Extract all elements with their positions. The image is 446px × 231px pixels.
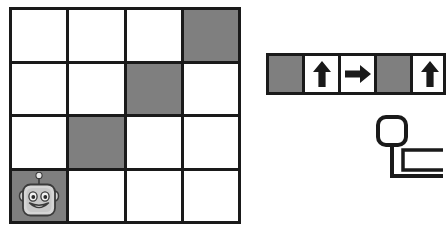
grid-cell-r3c2[interactable]	[127, 171, 181, 222]
grid-cell-r1c0[interactable]	[12, 64, 66, 115]
arrow-right-icon	[344, 64, 372, 84]
program-sequence-bar[interactable]	[266, 53, 446, 95]
arrow-up-icon	[312, 60, 332, 88]
sequence-slot-1[interactable]	[305, 56, 338, 92]
loop-block[interactable]	[370, 112, 443, 192]
grid-cell-r3c3[interactable]	[184, 171, 238, 222]
grid-cell-r0c2[interactable]	[127, 10, 181, 61]
sequence-slot-4[interactable]	[413, 56, 446, 92]
grid-cell-r0c1[interactable]	[69, 10, 123, 61]
grid-cell-r1c1[interactable]	[69, 64, 123, 115]
sequence-slot-2[interactable]	[341, 56, 374, 92]
grid-cell-r3c0[interactable]	[12, 171, 66, 222]
arrow-up-icon	[420, 60, 440, 88]
sequence-slot-0[interactable]	[269, 56, 302, 92]
loop-body-slot	[403, 150, 443, 170]
grid-cell-r2c3[interactable]	[184, 117, 238, 168]
grid-cell-r1c2[interactable]	[127, 64, 181, 115]
grid-cell-r2c0[interactable]	[12, 117, 66, 168]
grid-cell-r3c1[interactable]	[69, 171, 123, 222]
grid-cell-r2c2[interactable]	[127, 117, 181, 168]
robot-icon	[16, 172, 62, 220]
grid-cell-r2c1[interactable]	[69, 117, 123, 168]
loop-node-icon	[378, 117, 406, 145]
sequence-slot-3[interactable]	[377, 56, 410, 92]
grid-cell-r0c0[interactable]	[12, 10, 66, 61]
robot-grid[interactable]	[9, 7, 241, 224]
grid-cell-r1c3[interactable]	[184, 64, 238, 115]
grid-cell-r0c3[interactable]	[184, 10, 238, 61]
